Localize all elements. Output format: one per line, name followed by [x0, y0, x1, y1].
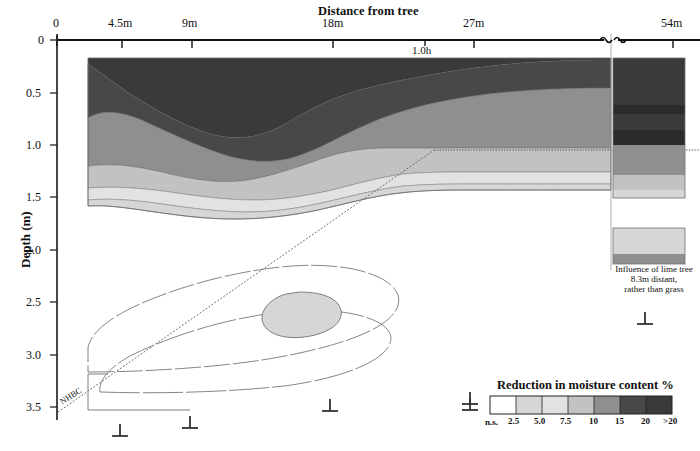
x-tick-label-54: 54m: [661, 16, 682, 31]
y-tick-label-1p0: 1.0: [26, 138, 41, 153]
y-tick-label-3p5: 3.5: [26, 400, 41, 415]
legend-label-2p5: 2.5: [508, 416, 519, 426]
y-tick-label-2p0: 2.0: [26, 243, 41, 258]
borehole-marker: [322, 399, 338, 411]
x-tick-label-27: 27m: [463, 16, 484, 31]
borehole-marker: [182, 416, 198, 428]
legend-label-5p0: 5.0: [534, 416, 545, 426]
lower-lobe-inner: [100, 310, 391, 393]
x-tick-label-4p5: 4.5m: [108, 16, 132, 31]
x-tick-label-0: 0: [53, 16, 59, 31]
right-panel-note-line-1: Influence of lime tree: [608, 264, 700, 274]
right-column-profile: [613, 58, 685, 264]
legend-title: Reduction in moisture content %: [497, 378, 674, 393]
right-panel-note-line-3: rather than grass: [608, 284, 700, 294]
x-tick-label-9: 9m: [182, 16, 197, 31]
right-panel-note-line-2: 8.3m distant,: [608, 274, 700, 284]
legend-swatches: [490, 396, 672, 414]
legend-label-7p5: 7.5: [560, 416, 571, 426]
one-point-zero-h-label: 1.0h: [412, 44, 431, 56]
right-panel-note: Influence of lime tree 8.3m distant, rat…: [608, 264, 700, 294]
legend-label-15: 15: [615, 416, 624, 426]
legend-label-10: 10: [589, 416, 598, 426]
borehole-marker: [112, 424, 128, 436]
legend-label-over20: >20: [663, 416, 677, 426]
lower-lobe-outer: [88, 265, 399, 372]
x-tick-marks: [57, 36, 673, 48]
lower-lobe-core: [262, 292, 341, 338]
y-tick-label-1p5: 1.5: [26, 190, 41, 205]
y-tick-label-3p0: 3.0: [26, 348, 41, 363]
y-axis-title: Depth (m): [18, 211, 34, 268]
borehole-marker: [637, 312, 653, 324]
contour-field-main: [88, 58, 611, 219]
y-tick-label-2p5: 2.5: [26, 295, 41, 310]
legend-label-20: 20: [641, 416, 650, 426]
x-tick-label-18: 18m: [322, 16, 343, 31]
y-tick-label-0p5: 0.5: [26, 86, 41, 101]
borehole-marker-legend: [462, 392, 478, 404]
y-tick-label-0: 0: [38, 33, 44, 48]
legend-label-ns: n.s.: [485, 417, 498, 427]
